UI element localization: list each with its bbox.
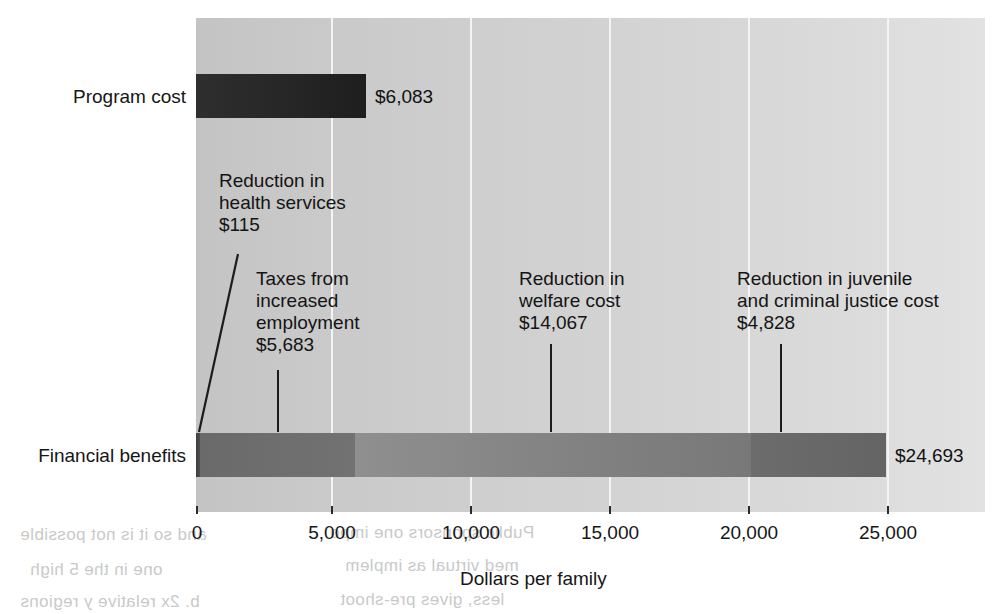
- tick-label-5000: 5,000: [308, 522, 356, 544]
- tick-label-15000: 15,000: [581, 522, 639, 544]
- leader-line-welfare-cost: [550, 344, 552, 432]
- tick-label-25000: 25,000: [859, 522, 917, 544]
- leader-line-juvenile-justice-cost: [780, 344, 782, 432]
- chart-figure: Table 11.A Nurse visitation Note: WFP = …: [0, 0, 1002, 614]
- tick-label-10000: 10,000: [442, 522, 500, 544]
- tick-mark-15000: [609, 506, 611, 514]
- x-axis-title: Dollars per family: [460, 568, 607, 590]
- tick-mark-5000: [331, 506, 333, 514]
- tick-label-20000: 20,000: [720, 522, 778, 544]
- tick-mark-25000: [887, 506, 889, 514]
- leader-line-health-services: [0, 0, 1002, 614]
- tick-mark-10000: [470, 506, 472, 514]
- leader-line-taxes-employment: [277, 370, 279, 432]
- tick-mark-20000: [748, 506, 750, 514]
- tick-label-0: 0: [192, 522, 203, 544]
- tick-mark-0: [196, 506, 198, 514]
